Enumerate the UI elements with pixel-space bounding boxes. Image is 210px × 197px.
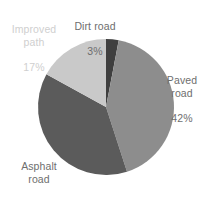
pie-chart: Improved path 17% Dirt road 3% Paved roa… — [0, 0, 210, 197]
pie-slice-group — [38, 39, 174, 175]
pie-chart-canvas — [0, 0, 210, 197]
